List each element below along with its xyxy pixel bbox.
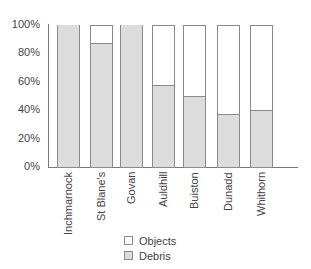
y-tick-label: 20% xyxy=(0,132,40,144)
debris-swatch xyxy=(124,251,133,260)
objects-swatch xyxy=(124,236,133,245)
legend-item-objects: Objects xyxy=(124,233,176,248)
legend: Objects Debris xyxy=(124,233,176,263)
debris-segment xyxy=(121,25,142,167)
bar-govan xyxy=(120,25,143,168)
debris-segment xyxy=(251,110,272,167)
legend-label: Debris xyxy=(139,250,171,262)
x-tick-label: Whithorn xyxy=(255,172,267,216)
x-tick-label: Govan xyxy=(125,172,137,204)
legend-item-debris: Debris xyxy=(124,248,176,263)
bar-inchmarnock xyxy=(57,25,80,168)
y-tick-label: 100% xyxy=(0,18,40,30)
debris-segment xyxy=(218,114,239,167)
y-tick-label: 40% xyxy=(0,103,40,115)
legend-label: Objects xyxy=(139,235,176,247)
debris-segment xyxy=(58,25,79,167)
y-tick-label: 80% xyxy=(0,46,40,58)
bar-buiston xyxy=(183,25,206,168)
x-tick-label: Dunadd xyxy=(222,172,234,211)
debris-segment xyxy=(184,96,205,167)
x-tick-label: Auldhill xyxy=(157,172,169,207)
y-tick-label: 0% xyxy=(0,160,40,172)
x-tick-label: Inchmarnock xyxy=(62,172,74,235)
debris-segment xyxy=(91,43,112,167)
bar-st-blane-s xyxy=(90,25,113,168)
debris-segment xyxy=(153,85,174,167)
bar-dunadd xyxy=(217,25,240,168)
stacked-bar-chart: 0%20%40%60%80%100% InchmarnockSt Blane's… xyxy=(0,0,311,269)
x-tick-label: Buiston xyxy=(188,172,200,209)
bar-whithorn xyxy=(250,25,273,168)
y-axis xyxy=(48,24,49,168)
bar-auldhill xyxy=(152,25,175,168)
y-tick-label: 60% xyxy=(0,75,40,87)
x-tick-label: St Blane's xyxy=(95,172,107,221)
